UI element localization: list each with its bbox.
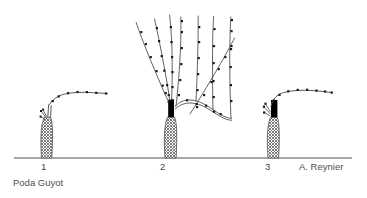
guyot-pruning-figure: 1 2 3 Poda Guyot A. Reynier (0, 0, 367, 198)
stage-1-trunk (41, 117, 53, 158)
stage-3-group (263, 89, 333, 158)
stage-3-fruiting-cane (271, 90, 333, 106)
stage-2-group (136, 15, 234, 158)
stage-1-fruiting-cane (49, 92, 107, 105)
stage-2-shoots (136, 15, 181, 106)
stage-number-3: 3 (265, 161, 270, 172)
figure-caption-title: Poda Guyot (13, 177, 63, 188)
stage-1-group (40, 91, 108, 158)
stage-2-trunk (164, 117, 176, 158)
stage-2-shoot-4 (176, 17, 181, 106)
figure-credit: A. Reynier (299, 161, 343, 172)
stage-1-stub-buds (40, 109, 45, 118)
stage-1-head-stem (48, 105, 51, 118)
stage-2-shoot-nodes (140, 19, 233, 115)
stage-number-2: 2 (160, 161, 165, 172)
stage-2-horizontal-cane (175, 100, 232, 120)
stage-3-trunk (267, 117, 279, 158)
stage-number-1: 1 (41, 161, 46, 172)
